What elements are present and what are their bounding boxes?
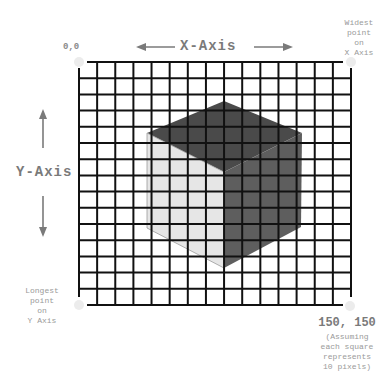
longest-corner-dot bbox=[74, 300, 84, 310]
origin-corner-dot bbox=[74, 57, 84, 67]
widest-point-note: Widest point on X Axis bbox=[334, 18, 384, 58]
longest-point-note: Longest point on Y Axis bbox=[14, 286, 70, 326]
origin-label: 0,0 bbox=[63, 42, 79, 52]
y-axis-down-arrow-icon bbox=[39, 196, 47, 237]
assumption-note: (Assuming each square represents 10 pixe… bbox=[314, 332, 380, 372]
y-axis-label: Y-Axis bbox=[16, 164, 72, 180]
x-axis-left-arrow-icon bbox=[136, 43, 175, 51]
end-coordinate-label: 150, 150 bbox=[312, 316, 382, 330]
end-corner-dot bbox=[345, 301, 355, 311]
x-axis-right-arrow-icon bbox=[254, 43, 293, 51]
y-axis-up-arrow-icon bbox=[39, 109, 47, 148]
x-axis-label: X-Axis bbox=[180, 38, 236, 54]
widest-corner-dot bbox=[346, 57, 356, 67]
